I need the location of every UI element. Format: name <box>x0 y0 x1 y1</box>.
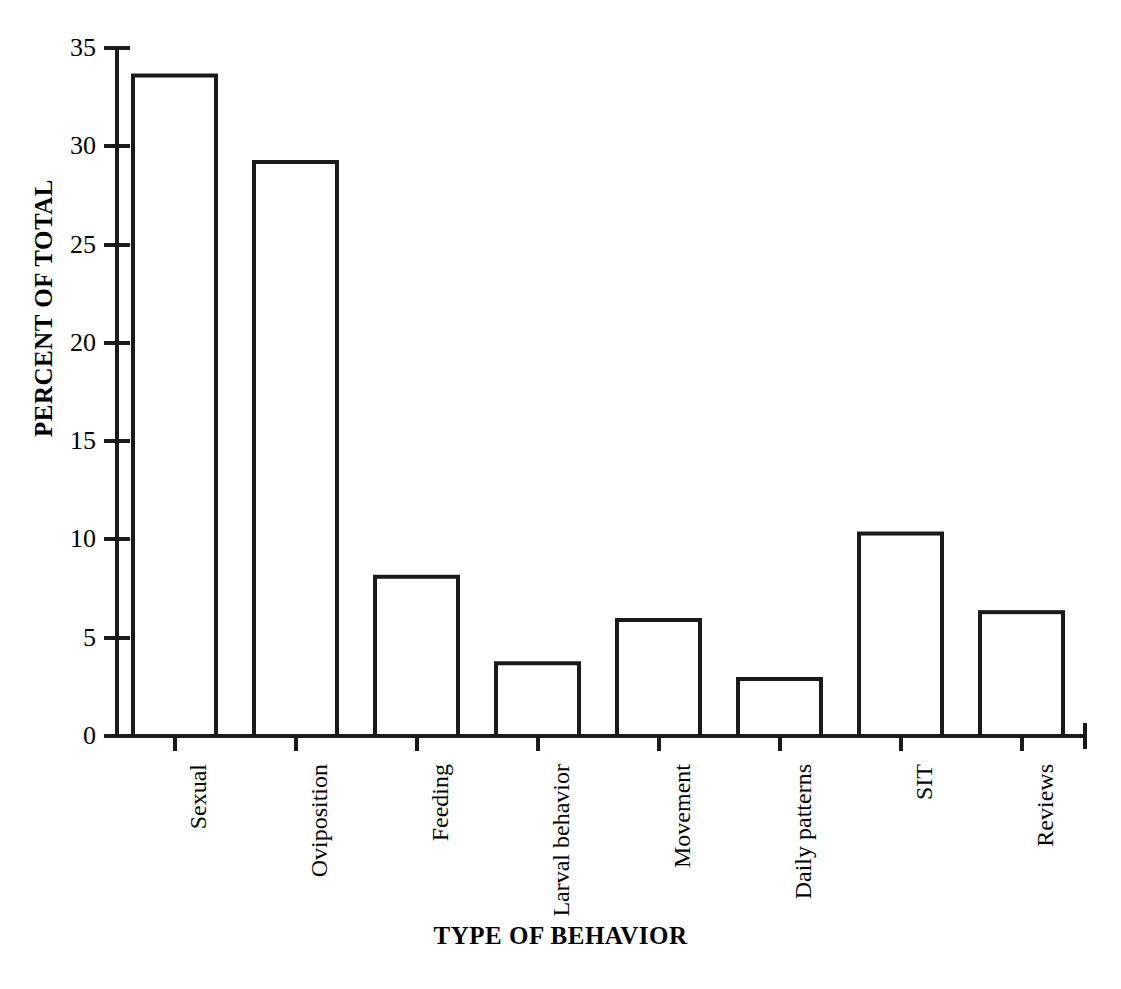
y-tick-label: 15 <box>50 428 96 454</box>
x-tick-label: SIT <box>912 764 936 989</box>
bar <box>617 620 700 736</box>
y-tick-label: 35 <box>50 35 96 61</box>
y-tick-label: 25 <box>50 232 96 258</box>
bar <box>859 534 942 736</box>
bar <box>375 577 458 736</box>
bar-chart-figure: PERCENT OF TOTAL TYPE OF BEHAVIOR 051015… <box>0 0 1121 989</box>
y-tick-label: 10 <box>50 526 96 552</box>
x-tick-label: Daily patterns <box>791 764 815 989</box>
bar <box>133 76 216 736</box>
y-tick-label: 30 <box>50 133 96 159</box>
y-tick-label: 20 <box>50 330 96 356</box>
y-tick-label: 0 <box>50 723 96 749</box>
x-tick-label: Movement <box>670 764 694 989</box>
x-tick-label: Feeding <box>428 764 452 989</box>
plot-area: 05101520253035SexualOvipositionFeedingLa… <box>0 0 1121 989</box>
x-tick-label: Sexual <box>186 764 210 989</box>
bar <box>738 679 821 736</box>
x-tick-label: Oviposition <box>307 764 331 989</box>
bar <box>496 663 579 736</box>
x-tick-label: Larval behavior <box>549 764 573 989</box>
bar <box>980 612 1063 736</box>
y-tick-label: 5 <box>50 625 96 651</box>
bar <box>254 162 337 736</box>
x-tick-label: Reviews <box>1033 764 1057 989</box>
